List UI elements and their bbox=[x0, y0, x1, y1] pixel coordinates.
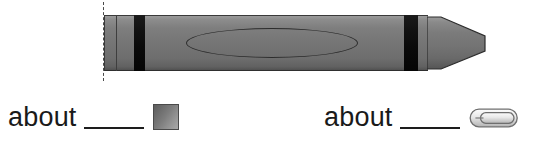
prompt-label-about-paperclip: about bbox=[324, 101, 393, 133]
prompt-label-about-swatch: about bbox=[8, 101, 77, 133]
answer-blank-paperclip[interactable] bbox=[400, 105, 460, 129]
prompt-row-swatch: about bbox=[8, 101, 179, 133]
crayon-end-ring-line bbox=[116, 15, 117, 71]
crayon-tip bbox=[427, 15, 491, 71]
color-swatch-icon bbox=[153, 104, 179, 130]
paperclip-icon bbox=[469, 107, 519, 129]
answer-blank-swatch[interactable] bbox=[84, 105, 144, 129]
crayon-band-left bbox=[134, 15, 145, 71]
crayon-label-oval bbox=[186, 28, 358, 58]
worksheet-page: about about bbox=[0, 0, 533, 144]
crayon-illustration bbox=[0, 0, 533, 92]
crayon-band-right bbox=[404, 15, 418, 71]
prompt-row-paperclip: about bbox=[324, 101, 519, 133]
